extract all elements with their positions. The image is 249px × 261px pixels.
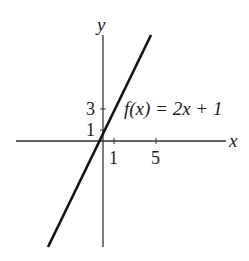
y-tick-label-1: 1 [86, 120, 95, 140]
x-axis-label: x [228, 130, 238, 151]
y-axis-label: y [95, 14, 106, 35]
graph: y x 3 1 1 5 f(x) = 2x + 1 [0, 0, 249, 261]
x-tick-label-1: 1 [109, 148, 118, 168]
x-tick-label-5: 5 [151, 148, 160, 168]
function-label: f(x) = 2x + 1 [124, 98, 222, 120]
y-tick-label-3: 3 [86, 99, 95, 119]
